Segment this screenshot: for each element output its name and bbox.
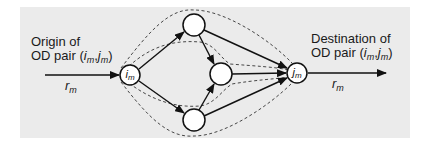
origin-label-line1: Origin of	[31, 35, 112, 49]
origin-label-line2: OD pair (im,jm)	[31, 49, 112, 67]
top-node	[183, 14, 205, 36]
origin-node-label: im	[120, 67, 140, 85]
network-diagram	[0, 0, 431, 146]
input-flow-label: rm	[65, 78, 77, 95]
destination-label-line1: Destination of	[311, 32, 392, 46]
output-flow-label: rm	[332, 76, 344, 93]
destination-label: Destination of OD pair (im,jm)	[311, 32, 392, 64]
destination-node-label: jm	[287, 65, 307, 83]
middle-node	[210, 63, 232, 85]
bottom-node	[183, 109, 205, 131]
destination-label-line2: OD pair (im,jm)	[311, 46, 392, 64]
origin-label: Origin of OD pair (im,jm)	[31, 35, 112, 67]
